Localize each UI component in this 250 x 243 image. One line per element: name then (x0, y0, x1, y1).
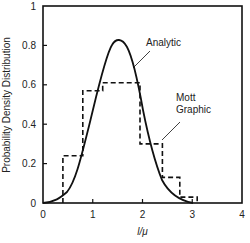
x-axis-title: l/μ (137, 226, 148, 237)
y-tick-0.6: 0.6 (22, 79, 36, 90)
y-tick-0.4: 0.4 (22, 119, 36, 130)
analytic-series (43, 40, 193, 203)
chart: 0 0.2 0.4 0.6 0.8 1 0 1 2 3 4 l/μ Probab… (0, 0, 250, 243)
y-tick-0.8: 0.8 (22, 40, 36, 51)
y-tick-0: 0 (30, 198, 36, 209)
annotation-analytic: Analytic (146, 37, 181, 48)
annotation-analytic-leader (133, 51, 150, 68)
x-tick-0: 0 (40, 209, 46, 220)
annotation-mott-line1: Mott (176, 92, 196, 103)
x-tick-2: 2 (140, 209, 146, 220)
x-tick-4: 4 (239, 209, 245, 220)
y-tick-0.2: 0.2 (22, 158, 36, 169)
y-axis-labels: 0 0.2 0.4 0.6 0.8 1 (22, 1, 36, 209)
x-tick-1: 1 (90, 209, 96, 220)
x-axis-labels: 0 1 2 3 4 (40, 209, 245, 220)
annotation-mott-leader (162, 122, 180, 140)
annotation-mott-line2: Graphic (176, 104, 211, 115)
x-tick-3: 3 (189, 209, 195, 220)
y-tick-1: 1 (30, 1, 36, 12)
y-axis-title: Probability Density Distribution (1, 37, 12, 173)
